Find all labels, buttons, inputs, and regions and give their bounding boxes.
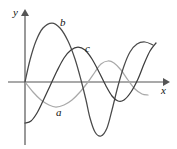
sinusoid-comparison-figure: y x a b c [0, 0, 177, 149]
plot-canvas [0, 0, 177, 149]
curves-group [25, 23, 156, 136]
curve-label-a: a [56, 107, 62, 118]
y-axis-label: y [13, 7, 18, 18]
curve-label-b: b [60, 17, 66, 28]
x-axis-label: x [161, 85, 166, 96]
y-axis-arrowhead [21, 9, 29, 16]
axes-group [8, 9, 170, 145]
curve-label-c: c [85, 43, 90, 54]
curve-c [25, 43, 156, 123]
